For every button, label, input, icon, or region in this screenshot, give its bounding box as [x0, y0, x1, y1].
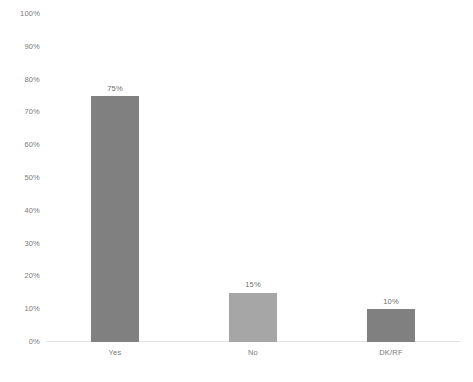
bar-value-label: 10% [383, 298, 399, 306]
y-axis-tick-label: 70% [0, 109, 46, 117]
y-axis-tick-label: 20% [0, 273, 46, 281]
category-label: No [248, 349, 258, 357]
plot-area: 75%15%10% [46, 14, 460, 342]
bar-value-label: 75% [107, 85, 123, 93]
bar[interactable]: 10% [367, 309, 415, 342]
y-axis-tick-label: 90% [0, 43, 46, 51]
bar-value-label: 15% [245, 281, 261, 289]
y-axis-tick-label: 50% [0, 174, 46, 182]
y-axis-tick-label: 40% [0, 207, 46, 215]
y-axis-tick-label: 0% [0, 338, 46, 346]
y-axis-tick-label: 30% [0, 240, 46, 248]
category-label: DK/RF [379, 349, 403, 357]
y-axis-tick-label: 100% [0, 10, 46, 18]
category-label: Yes [109, 349, 122, 357]
bar[interactable]: 15% [229, 293, 277, 342]
y-axis-tick-label: 80% [0, 76, 46, 84]
y-axis-tick-label: 60% [0, 141, 46, 149]
y-axis-tick-label: 10% [0, 305, 46, 313]
bar-chart: 0%10%20%30%40%50%60%70%80%90%100% 75%15%… [0, 0, 473, 382]
bar[interactable]: 75% [91, 96, 139, 342]
